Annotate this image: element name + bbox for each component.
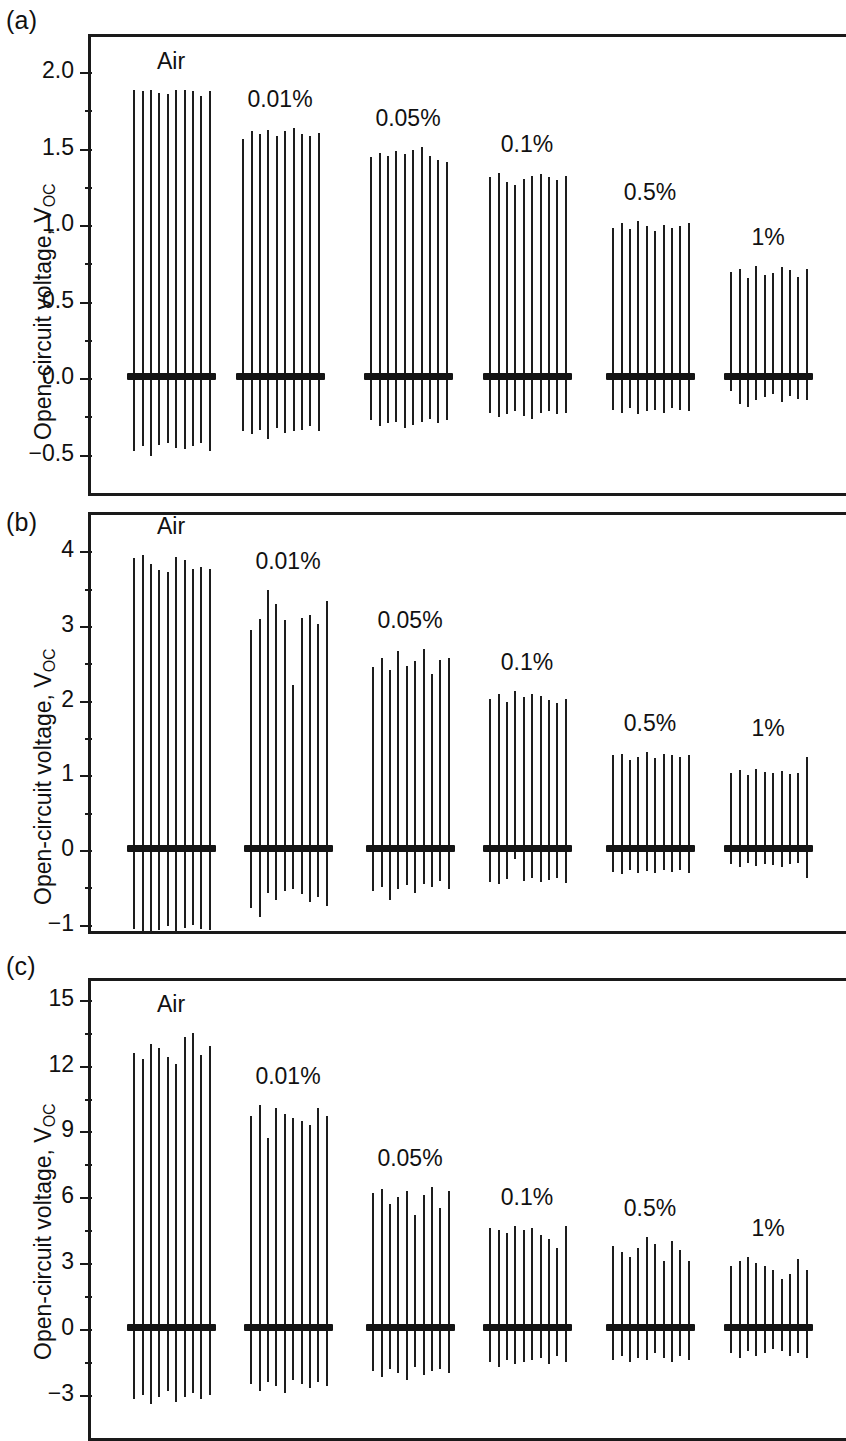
spike-positive — [523, 1230, 525, 1327]
spike-negative — [259, 376, 261, 430]
spike-negative — [259, 1327, 261, 1391]
spike-positive — [175, 1064, 177, 1327]
spike-negative — [531, 848, 533, 878]
spike-positive — [629, 760, 631, 848]
spike-negative — [292, 1327, 294, 1380]
spike-negative — [142, 1327, 144, 1395]
spike-positive — [389, 1204, 391, 1327]
y-tick-major — [80, 850, 92, 852]
group-label: 0.01% — [255, 1063, 320, 1090]
spike-negative — [806, 848, 808, 878]
spike-positive — [301, 1121, 303, 1327]
spike-negative — [414, 848, 416, 893]
spike-negative — [421, 376, 423, 422]
y-tick-label: −3 — [12, 1379, 74, 1406]
spike-positive — [414, 661, 416, 848]
spike-positive — [293, 128, 295, 376]
spike-positive — [781, 771, 783, 848]
spike-positive — [506, 182, 508, 376]
spike-positive — [565, 1226, 567, 1327]
spike-positive — [395, 151, 397, 376]
spike-positive — [637, 757, 639, 848]
spike-negative — [540, 376, 542, 413]
zero-baseline — [364, 373, 453, 380]
y-tick-major — [80, 378, 92, 380]
spike-negative — [150, 848, 152, 932]
spike-positive — [309, 615, 311, 848]
spike-negative — [523, 1327, 525, 1362]
spike-negative — [133, 1327, 135, 1399]
spike-positive — [797, 773, 799, 848]
spike-negative — [671, 1327, 673, 1362]
spike-positive — [326, 1116, 328, 1327]
spike-negative — [523, 848, 525, 881]
y-tick-label: 0.0 — [12, 363, 74, 390]
spike-positive — [404, 154, 406, 376]
group-label: 0.05% — [377, 1145, 442, 1172]
spike-negative — [637, 376, 639, 414]
spike-positive — [423, 649, 425, 848]
spike-positive — [448, 1191, 450, 1327]
spike-negative — [498, 848, 500, 884]
spike-positive — [523, 697, 525, 848]
spike-negative — [192, 376, 194, 446]
spike-negative — [326, 1327, 328, 1386]
spike-positive — [772, 1270, 774, 1327]
y-tick-major — [80, 925, 92, 927]
spike-negative — [556, 376, 558, 414]
spike-negative — [621, 1327, 623, 1356]
spike-positive — [284, 620, 286, 848]
zero-baseline — [127, 1324, 216, 1331]
spike-negative — [370, 376, 372, 420]
group-label: Air — [157, 991, 185, 1018]
spike-positive — [284, 1114, 286, 1327]
spike-positive — [406, 1191, 408, 1327]
spike-positive — [381, 658, 383, 848]
spike-positive — [646, 752, 648, 848]
spike-negative — [267, 376, 269, 439]
spike-positive — [250, 1116, 252, 1327]
spike-positive — [250, 630, 252, 848]
y-tick-label: 9 — [12, 1116, 74, 1143]
y-tick-minor — [85, 813, 92, 815]
panel-tag: (c) — [6, 952, 36, 981]
spike-negative — [209, 376, 211, 451]
spike-positive — [267, 1138, 269, 1327]
spike-negative — [654, 376, 656, 410]
spike-positive — [437, 160, 439, 376]
spike-negative — [540, 1327, 542, 1358]
spike-positive — [772, 773, 774, 848]
spike-negative — [565, 848, 567, 883]
spike-negative — [175, 1327, 177, 1402]
y-tick-minor — [85, 1164, 92, 1166]
spike-negative — [379, 376, 381, 426]
y-tick-minor — [85, 1296, 92, 1298]
y-tick-minor — [85, 1230, 92, 1232]
spike-positive — [806, 757, 808, 848]
spike-negative — [318, 376, 320, 431]
spike-positive — [797, 1259, 799, 1327]
spike-positive — [646, 1237, 648, 1327]
spike-positive — [292, 685, 294, 848]
spike-negative — [637, 1327, 639, 1358]
spike-negative — [251, 376, 253, 434]
spike-negative — [406, 848, 408, 885]
spike-negative — [158, 1327, 160, 1397]
spike-positive — [789, 270, 791, 376]
spike-negative — [326, 848, 328, 906]
spike-negative — [514, 376, 516, 411]
spike-positive — [688, 223, 690, 376]
spike-positive — [429, 156, 431, 376]
spike-negative — [200, 1327, 202, 1399]
y-tick-major — [80, 1329, 92, 1331]
spike-positive — [489, 699, 491, 848]
group-label: 0.1% — [501, 1184, 553, 1211]
spike-negative — [531, 376, 533, 419]
spike-negative — [514, 1327, 516, 1364]
spike-negative — [275, 848, 277, 900]
spike-positive — [730, 1266, 732, 1327]
spike-positive — [781, 267, 783, 376]
spike-positive — [167, 94, 169, 376]
spike-negative — [142, 376, 144, 446]
spike-positive — [317, 624, 319, 848]
